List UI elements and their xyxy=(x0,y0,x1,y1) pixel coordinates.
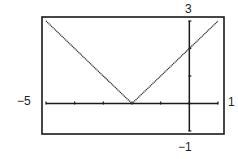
xmin-label: −5 xyxy=(17,95,31,107)
ymin-label: −1 xyxy=(178,141,192,153)
ymax-label: 3 xyxy=(185,3,192,15)
absolute-value-curve xyxy=(46,21,218,104)
xmax-label: 1 xyxy=(228,96,235,108)
graph-screen xyxy=(0,0,238,159)
axes xyxy=(46,21,218,131)
viewing-window-frame xyxy=(42,17,224,134)
